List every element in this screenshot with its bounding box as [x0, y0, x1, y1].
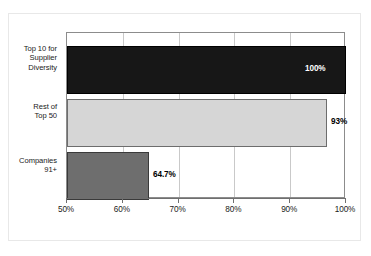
category-label-rest50-line2: Top 50 — [9, 111, 57, 120]
x-tick-60 — [122, 198, 123, 203]
category-label-top10-line1: Top 10 for — [9, 44, 57, 53]
category-axis-labels: Top 10 for Supplier Diversity Rest of To… — [9, 32, 57, 198]
category-label-rest50: Rest of Top 50 — [9, 102, 57, 121]
x-tick-80 — [233, 198, 234, 203]
category-label-companies91-line2: 91+ — [9, 165, 57, 174]
x-tick-label-80: 80% — [225, 205, 241, 214]
x-tick-label-100: 100% — [335, 205, 356, 214]
category-label-top10: Top 10 for Supplier Diversity — [9, 44, 57, 72]
x-axis-line — [66, 198, 345, 199]
x-tick-label-50: 50% — [58, 205, 74, 214]
bar-value-top10: 100% — [305, 64, 326, 73]
category-label-rest50-line1: Rest of — [9, 102, 57, 111]
bar-rest-of-top50 — [67, 99, 327, 147]
category-label-top10-line2: Supplier — [9, 53, 57, 62]
x-tick-label-90: 90% — [281, 205, 297, 214]
bar-value-rest50: 93% — [331, 117, 347, 126]
bar-value-companies91: 64.7% — [153, 170, 176, 179]
x-tick-label-70: 70% — [170, 205, 186, 214]
x-tick-100 — [345, 198, 346, 203]
x-tick-70 — [178, 198, 179, 203]
chart-title-artifact — [54, 15, 284, 21]
category-label-companies91-line1: Companies — [9, 156, 57, 165]
x-tick-label-60: 60% — [114, 205, 130, 214]
x-tick-50 — [66, 198, 67, 203]
x-tick-90 — [289, 198, 290, 203]
category-label-top10-line3: Diversity — [9, 63, 57, 72]
bar-companies-91-plus — [67, 152, 149, 200]
chart-figure: Top 10 for Supplier Diversity Rest of To… — [8, 13, 361, 241]
plot-area: 100% 93% 64.7% — [66, 32, 345, 198]
category-label-companies91: Companies 91+ — [9, 156, 57, 175]
